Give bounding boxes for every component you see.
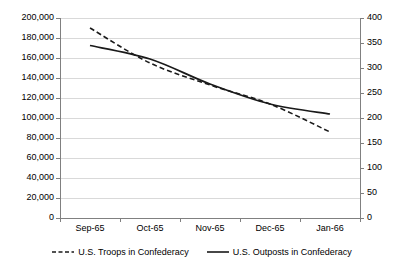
y-tick-right — [360, 18, 364, 19]
y-axis-right-tick-label: 50 — [367, 188, 403, 197]
y-axis-left-tick-label: 20,000 — [4, 193, 54, 202]
legend-label-outposts: U.S. Outposts in Confederacy — [233, 247, 352, 257]
y-axis-right-tick-label: 400 — [367, 13, 403, 22]
series-line-troops — [90, 28, 330, 132]
y-axis-left-tick-label: 100,000 — [4, 113, 54, 122]
y-axis-left-tick-label: 180,000 — [4, 33, 54, 42]
y-axis-left-tick-label: 0 — [4, 213, 54, 222]
chart-legend: U.S. Troops in Confederacy U.S. Outposts… — [0, 247, 404, 257]
y-axis-right-tick-label: 0 — [367, 213, 403, 222]
x-tick — [360, 218, 361, 222]
y-axis-left-tick-label: 200,000 — [4, 13, 54, 22]
y-axis-left-tick-label: 40,000 — [4, 173, 54, 182]
y-tick-right — [360, 168, 364, 169]
y-tick-right — [360, 193, 364, 194]
legend-item-outposts[interactable]: U.S. Outposts in Confederacy — [207, 247, 352, 257]
legend-label-troops: U.S. Troops in Confederacy — [78, 247, 189, 257]
y-axis-left-tick-label: 160,000 — [4, 53, 54, 62]
y-axis-right-tick-label: 300 — [367, 63, 403, 72]
x-tick — [240, 218, 241, 222]
y-axis-right-tick-label: 250 — [367, 88, 403, 97]
x-axis-tick-label: Nov-65 — [180, 223, 240, 233]
y-axis-left-tick-label: 120,000 — [4, 93, 54, 102]
series-line-outposts — [90, 46, 330, 115]
y-tick-right — [360, 118, 364, 119]
y-tick-right — [360, 43, 364, 44]
x-axis-tick-label: Dec-65 — [240, 223, 300, 233]
x-tick — [300, 218, 301, 222]
y-axis-right-tick-label: 100 — [367, 163, 403, 172]
y-axis-right-tick-label: 350 — [367, 38, 403, 47]
y-axis-left-tick-label: 140,000 — [4, 73, 54, 82]
series-plot — [60, 18, 360, 218]
y-axis-right-tick-label: 200 — [367, 113, 403, 122]
x-tick — [120, 218, 121, 222]
x-axis-tick-label: Sep-65 — [60, 223, 120, 233]
y-tick-right — [360, 68, 364, 69]
y-axis-left-tick-label: 80,000 — [4, 133, 54, 142]
x-axis-tick-label: Oct-65 — [120, 223, 180, 233]
y-axis-right-tick-label: 150 — [367, 138, 403, 147]
y-tick-right — [360, 93, 364, 94]
x-tick — [180, 218, 181, 222]
chart-container: 020,00040,00060,00080,000100,000120,0001… — [0, 0, 404, 271]
y-tick-right — [360, 143, 364, 144]
y-axis-left-tick-label: 60,000 — [4, 153, 54, 162]
legend-item-troops[interactable]: U.S. Troops in Confederacy — [52, 247, 189, 257]
x-axis-tick-label: Jan-66 — [300, 223, 360, 233]
x-axis-line — [60, 218, 361, 219]
x-tick — [60, 218, 61, 222]
solid-line-icon — [207, 248, 229, 256]
dashed-line-icon — [52, 248, 74, 256]
